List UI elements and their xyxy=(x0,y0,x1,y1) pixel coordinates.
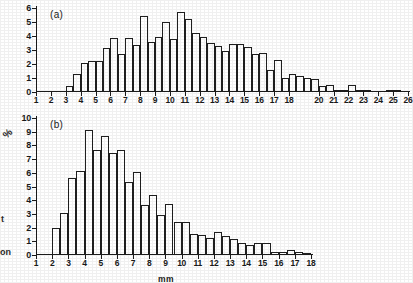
x-axis-tick-label: 14 xyxy=(242,259,251,268)
y-axis-tick-label: 10 xyxy=(21,114,31,123)
histogram-bar xyxy=(125,182,133,255)
y-axis-tick-label: 0 xyxy=(26,251,31,260)
x-axis-b xyxy=(36,254,313,255)
x-axis-tick-label: 26 xyxy=(404,96,413,105)
x-axis-tick-label: 23 xyxy=(359,96,368,105)
y-axis-tick xyxy=(32,187,36,188)
histogram-bar xyxy=(109,153,117,255)
x-axis-tick-label: 13 xyxy=(210,96,219,105)
histogram-bar xyxy=(101,136,109,255)
y-axis-tick xyxy=(32,132,36,133)
histogram-bar xyxy=(81,63,88,92)
x-axis-tick-label: 8 xyxy=(138,96,142,105)
histogram-bar xyxy=(244,47,251,92)
y-axis-tick xyxy=(32,50,36,51)
histogram-bar xyxy=(133,45,140,92)
x-axis-tick-label: 1 xyxy=(34,259,38,268)
histogram-bar xyxy=(274,60,281,92)
y-axis-tick xyxy=(32,228,36,229)
x-axis-tick-label: 6 xyxy=(108,96,112,105)
histogram-bar xyxy=(192,33,199,92)
histogram-bar xyxy=(133,172,141,255)
histogram-bar xyxy=(229,44,236,92)
histogram-bar xyxy=(222,236,230,255)
figure-page: (a) 012345612345678910111213141516171820… xyxy=(0,0,413,283)
x-axis-tick-label: 16 xyxy=(255,96,264,105)
histogram-bar xyxy=(85,130,93,255)
histogram-bar xyxy=(162,22,169,92)
histogram-bar xyxy=(174,222,182,255)
y-axis-tick-label: 1 xyxy=(26,237,31,246)
x-axis-tick-label: 10 xyxy=(177,259,186,268)
y-axis-a xyxy=(36,6,37,92)
y-axis-tick xyxy=(32,8,36,9)
x-axis-tick-label: 8 xyxy=(147,259,151,268)
y-axis-tick-label: 2 xyxy=(26,223,31,232)
histogram-bar xyxy=(177,12,184,92)
histogram-bar xyxy=(149,195,157,255)
histogram-bar xyxy=(230,239,238,255)
histogram-bar xyxy=(289,74,296,92)
histogram-bar xyxy=(96,61,103,92)
x-axis-tick-label: 24 xyxy=(374,96,383,105)
y-axis-tick-label: 8 xyxy=(26,141,31,150)
histogram-bar xyxy=(52,228,60,255)
x-axis-tick-label: 7 xyxy=(123,96,127,105)
y-axis-tick xyxy=(32,173,36,174)
x-axis-tick-label: 4 xyxy=(78,96,82,105)
y-axis-tick xyxy=(32,64,36,65)
histogram-bar xyxy=(282,78,289,92)
y-axis-tick xyxy=(32,159,36,160)
histogram-bar xyxy=(73,74,80,92)
histogram-bar xyxy=(170,39,177,92)
x-axis-tick-label: 11 xyxy=(181,96,189,105)
x-axis-tick-label: 9 xyxy=(153,96,157,105)
histogram-bar xyxy=(88,61,95,92)
percent-axis-label: % xyxy=(0,126,14,140)
histogram-bar xyxy=(222,51,229,92)
histogram-bar xyxy=(148,42,155,92)
histogram-bar xyxy=(110,38,117,92)
histogram-bar xyxy=(118,54,125,92)
x-axis-tick-label: 3 xyxy=(64,96,68,105)
x-axis-tick-label: 5 xyxy=(98,259,102,268)
histogram-bar xyxy=(198,235,206,255)
histogram-bar xyxy=(185,19,192,92)
y-axis-tick-label: 1 xyxy=(26,74,31,83)
x-axis-tick-label: 17 xyxy=(290,259,299,268)
histogram-bar xyxy=(304,78,311,92)
histogram-bar xyxy=(206,238,214,255)
histogram-bar xyxy=(125,38,132,92)
histogram-bar xyxy=(68,178,76,255)
x-axis-tick-label: 6 xyxy=(115,259,119,268)
x-axis-tick-label: 11 xyxy=(194,259,202,268)
y-axis-tick xyxy=(32,214,36,215)
histogram-panel-b: (b) 012345678910123456789101112131415161… xyxy=(36,118,311,255)
histogram-bar xyxy=(103,48,110,92)
x-axis-tick-label: 2 xyxy=(50,259,54,268)
panel-label-a: (a) xyxy=(50,9,63,20)
plot-area-a xyxy=(36,8,408,92)
y-axis-tick xyxy=(32,200,36,201)
histogram-bar xyxy=(214,232,222,255)
y-axis-tick xyxy=(32,118,36,119)
histogram-bar xyxy=(60,213,68,255)
x-axis-tick-label: 1 xyxy=(34,96,38,105)
y-axis-tick-label: 6 xyxy=(26,168,31,177)
y-axis-tick-label: 0 xyxy=(26,88,31,97)
y-axis-tick-label: 3 xyxy=(26,46,31,55)
x-axis-tick-label: 3 xyxy=(66,259,70,268)
histogram-bar xyxy=(190,234,198,255)
x-axis-tick-label: 20 xyxy=(314,96,323,105)
histogram-bar xyxy=(267,70,274,92)
histogram-bar xyxy=(165,204,173,255)
y-axis-tick-label: 4 xyxy=(26,32,31,41)
y-axis-tick-label: 7 xyxy=(26,155,31,164)
x-axis-title-mm: mm xyxy=(158,274,174,283)
y-axis-tick xyxy=(32,22,36,23)
x-axis-tick-label: 10 xyxy=(165,96,174,105)
histogram-bar xyxy=(155,37,162,92)
histogram-bar xyxy=(252,54,259,93)
x-axis-tick-label: 22 xyxy=(344,96,353,105)
y-axis-tick-label: 3 xyxy=(26,209,31,218)
